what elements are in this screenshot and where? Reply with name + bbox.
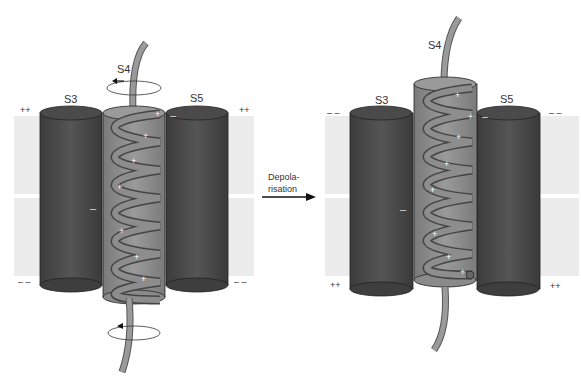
svg-text:+: +: [117, 182, 122, 192]
left-panel: +++ ++++ S4 S3 S5 ++ ++ – – – – – –: [14, 43, 254, 372]
right-panel: +++ +++++ S4 S3 S5 – – – – ++ ++ – –: [325, 18, 579, 350]
charge-inner-right-right: ++: [550, 281, 561, 291]
label-s5-left: S5: [190, 92, 203, 104]
helix-s5: [166, 106, 228, 292]
svg-text:+: +: [430, 185, 435, 195]
svg-text:+: +: [143, 131, 148, 141]
helix-s5-right: [477, 106, 540, 296]
charge-outer-right-right: – –: [549, 108, 562, 118]
svg-text:+: +: [432, 229, 437, 239]
diagram-canvas: +++ ++++ S4 S3 S5 ++ ++ – – – – – – Depo…: [0, 0, 581, 385]
svg-text:+: +: [468, 112, 473, 122]
charge-outer-left-right: – –: [327, 108, 340, 118]
s3-charge: –: [90, 202, 97, 214]
s5-charge: –: [170, 109, 177, 121]
label-s4-right: S4: [428, 39, 441, 51]
svg-text:+: +: [456, 132, 461, 142]
svg-text:+: +: [134, 252, 139, 262]
label-s4-left: S4: [117, 63, 130, 75]
label-s5-right: S5: [500, 93, 513, 105]
helix-s3: [40, 106, 102, 292]
rotation-arrow-bottom-icon: [108, 326, 160, 340]
svg-text:+: +: [141, 274, 146, 284]
arrow-label-line1: Depola-: [268, 172, 300, 182]
charge-outer-left: ++: [20, 105, 31, 115]
s5-charge-right: –: [482, 110, 489, 122]
helix-s4-right: +++ +++++: [414, 18, 477, 350]
svg-text:+: +: [446, 252, 451, 262]
depolarisation-arrow: Depola- risation: [262, 172, 316, 201]
svg-text:+: +: [119, 226, 124, 236]
svg-text:+: +: [460, 267, 465, 277]
svg-text:+: +: [455, 90, 460, 100]
charge-inner-left-right: ++: [330, 280, 341, 290]
arrow-label-line2: risation: [268, 184, 297, 194]
charge-inner-left: – –: [18, 277, 31, 287]
charge-inner-right: – –: [234, 277, 247, 287]
voltage-sensor-diagram: +++ ++++ S4 S3 S5 ++ ++ – – – – – – Depo…: [0, 0, 581, 385]
svg-text:+: +: [131, 156, 136, 166]
helix-s3-right: [350, 106, 413, 296]
s3-charge-right: –: [400, 203, 407, 215]
label-s3-left: S3: [64, 93, 77, 105]
label-s3-right: S3: [375, 94, 388, 106]
svg-text:+: +: [155, 109, 160, 119]
svg-text:+: +: [444, 159, 449, 169]
charge-outer-right: ++: [239, 105, 250, 115]
